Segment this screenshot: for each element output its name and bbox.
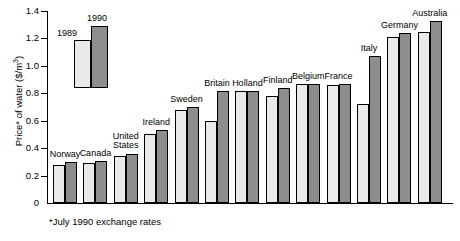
bar-1990 [247, 91, 259, 203]
bar-1989 [144, 134, 156, 203]
y-axis-tick: 0.6 [0, 121, 47, 122]
bar-1990 [308, 84, 320, 203]
bar-group: Sweden [175, 11, 199, 203]
bar-1990 [430, 21, 442, 203]
bar-1990 [217, 91, 229, 203]
y-axis-tick-label: 1.4 [0, 6, 39, 16]
bar-1990 [369, 56, 381, 203]
bar-1990 [399, 33, 411, 203]
y-axis-tick-label: 0.8 [0, 88, 39, 98]
bar-1989 [235, 91, 247, 203]
bar-1989 [114, 156, 126, 203]
y-axis-tick-label: 0.2 [0, 171, 39, 181]
bar-1990 [278, 88, 290, 203]
water-price-bar-chart: Price* of water ($/m3) 00.20.40.60.81.01… [0, 0, 460, 241]
bar-category-label: Australia [405, 8, 455, 18]
bar-1990 [187, 107, 199, 203]
bar-group: France [327, 11, 351, 203]
bar-1989 [266, 96, 278, 203]
chart-legend: 1989 1990 [74, 12, 134, 88]
y-axis-tick: 0.8 [0, 93, 47, 94]
y-axis-title-tail: ) [13, 56, 24, 59]
bar-1989 [83, 163, 95, 203]
bar-1989 [296, 84, 308, 203]
y-axis-tick-label: 0.4 [0, 143, 39, 153]
bar-1989 [175, 110, 187, 203]
bar-1989 [53, 165, 65, 203]
y-axis-tick: 0 [0, 203, 47, 204]
bar-group: Britain [205, 11, 229, 203]
y-axis-title-text: Price* of water ($/m [13, 63, 24, 146]
y-axis-tick-label: 1.0 [0, 61, 39, 71]
legend-label-1990: 1990 [87, 13, 107, 23]
bar-group: Ireland [144, 11, 168, 203]
y-axis-tick: 1.0 [0, 66, 47, 67]
bar-1990 [65, 162, 77, 203]
legend-swatch-1989 [74, 40, 91, 88]
bar-group: Finland [266, 11, 290, 203]
chart-footnote: *July 1990 exchange rates [49, 216, 161, 227]
bar-1990 [95, 161, 107, 204]
bar-group: Germany [387, 11, 411, 203]
bar-group: Italy [357, 11, 381, 203]
legend-label-1989: 1989 [57, 28, 77, 38]
bar-1989 [357, 104, 369, 203]
bar-1990 [339, 84, 351, 203]
bar-group: Australia [418, 11, 442, 203]
y-axis-tick-label: 0 [0, 198, 39, 208]
legend-swatch-1990 [91, 26, 108, 88]
y-axis-tick: 0.2 [0, 176, 47, 177]
bar-group: Belgium [296, 11, 320, 203]
bar-1989 [205, 121, 217, 203]
bar-1989 [418, 32, 430, 203]
y-axis-tick: 1.4 [0, 11, 47, 12]
bar-group: Holland [235, 11, 259, 203]
y-axis-title: Price* of water ($/m3) [12, 21, 24, 181]
bar-1990 [156, 130, 168, 203]
bar-1989 [387, 37, 399, 203]
bar-1990 [126, 154, 138, 203]
y-axis-tick-label: 1.2 [0, 33, 39, 43]
x-axis-line [47, 203, 453, 204]
y-axis-tick-label: 0.6 [0, 116, 39, 126]
bar-1989 [327, 85, 339, 203]
y-axis-tick: 1.2 [0, 38, 47, 39]
bar-category-label: United States [105, 132, 147, 151]
